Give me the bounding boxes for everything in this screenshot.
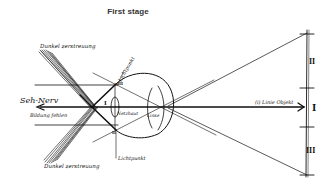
segment-upper-label: II [309, 57, 315, 66]
label-upper-point: Lichtpunkt [116, 55, 137, 84]
label-left-arrow-top: Seh-Nerv [20, 96, 59, 105]
label-inner-lens: Netzhaut [116, 111, 138, 116]
eye-lens [148, 88, 153, 128]
label-upper-band: Dunkel zerstreuung [39, 43, 96, 50]
roman-upper-small: III [117, 81, 123, 86]
label-left-arrow-bottom: Bildung fehlen [29, 112, 67, 119]
roman-lower-small: II [112, 130, 116, 135]
eye-outline [116, 73, 174, 138]
label-eye-lens: Linse [146, 113, 160, 118]
roman-center-small: I [104, 99, 107, 107]
optics-diagram: Dunkel zerstreuung Dunkel zerstreuung Se… [0, 0, 329, 186]
segment-lower-label: III [306, 146, 315, 155]
label-axis: (i) Linie Objekt [255, 99, 294, 106]
label-lower-band: Dunkel zerstreuung [43, 163, 100, 170]
segment-center-label: I [312, 101, 316, 113]
label-lower-point: Lichtpunkt [117, 155, 147, 162]
